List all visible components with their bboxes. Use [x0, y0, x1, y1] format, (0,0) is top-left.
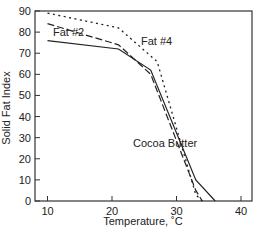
y-axis-title: Solid Fat Index [0, 71, 12, 145]
y-tick-label: 30 [19, 132, 31, 144]
y-tick-label: 10 [19, 174, 31, 186]
y-tick-label: 70 [19, 47, 31, 59]
label-fat-2: Fat #2 [53, 26, 84, 38]
series-fat-4 [48, 13, 203, 201]
y-tick-label: 0 [25, 195, 31, 207]
label-fat-4: Fat #4 [141, 35, 172, 47]
plot-series [48, 13, 216, 201]
y-tick-label: 20 [19, 153, 31, 165]
series-fat-2 [48, 24, 203, 201]
label-cocoa-butter: Cocoa Butter [133, 137, 198, 149]
y-tick-label: 90 [19, 5, 31, 17]
x-tick-label: 10 [41, 205, 53, 217]
x-axis-title: Temperature, ˚C [103, 215, 183, 227]
solid-fat-index-chart: 010203040506070809010203040 Fat #2 Fat #… [0, 0, 255, 232]
y-tick-label: 60 [19, 68, 31, 80]
y-tick-label: 80 [19, 26, 31, 38]
x-tick-label: 40 [235, 205, 247, 217]
y-tick-label: 50 [19, 89, 31, 101]
y-tick-label: 40 [19, 111, 31, 123]
